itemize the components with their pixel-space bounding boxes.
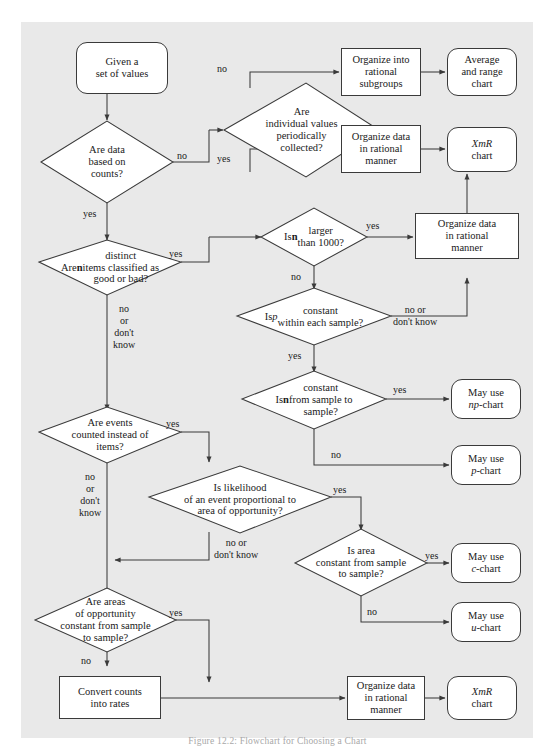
node-start-label: Given aset of values <box>77 56 167 80</box>
node-q-counts-label: Are databased oncounts? <box>41 121 173 203</box>
node-q-n-larger-label: Is n largerthan 1000? <box>261 208 367 266</box>
node-organize-rational-bottom-label: Organize datain rationalmanner <box>348 680 424 715</box>
node-xmr-chart-bottom-label: XmRchart <box>448 686 516 710</box>
node-organize-rational-top-label: Organize datain rationalmanner <box>342 131 420 166</box>
edge-label-individual-no: no <box>217 63 227 75</box>
node-q-areas-opportunity[interactable]: Are areasof opportunityconstant from sam… <box>35 588 176 652</box>
edge-label-nlarger-no: no <box>291 271 301 283</box>
node-xmr-chart-top-label: XmRchart <box>448 138 516 162</box>
node-q-n-larger[interactable]: Is n largerthan 1000? <box>261 208 367 266</box>
edge-likelihood-nodk <box>115 532 209 560</box>
edge-label-events-yes: yes <box>166 418 179 430</box>
node-q-area-constant-label: Is areaconstant from sampleto sample? <box>295 529 427 596</box>
node-np-chart-label: May usenp-chart <box>452 387 520 411</box>
node-organize-subgroups[interactable]: Organize intorationalsubgroups <box>341 48 421 96</box>
node-c-chart[interactable]: May usec-chart <box>451 543 521 583</box>
edge-label-likelihood-nodk: no or don't know <box>214 537 258 561</box>
node-np-chart[interactable]: May usenp-chart <box>451 379 521 419</box>
node-q-events[interactable]: Are eventscounted instead ofitems? <box>39 407 181 463</box>
node-u-chart[interactable]: May useu-chart <box>451 602 521 642</box>
node-xmr-chart-bottom[interactable]: XmRchart <box>447 676 517 720</box>
node-q-p-constant[interactable]: Is p constantwithin each sample? <box>237 288 391 345</box>
node-u-chart-label: May useu-chart <box>452 610 520 634</box>
node-organize-rational-mid[interactable]: Organize datain rationalmanner <box>415 213 519 259</box>
edge-label-areasopp-no: no <box>81 655 91 667</box>
edge-events-yes <box>181 432 209 462</box>
edge-label-pconstant-nodk: no or don't know <box>393 304 437 328</box>
flowchart-panel: Given aset of values Are databased oncou… <box>21 22 533 738</box>
node-organize-rational-mid-label: Organize datain rationalmanner <box>416 218 518 253</box>
node-convert-counts[interactable]: Convert countsinto rates <box>59 676 161 719</box>
node-convert-counts-label: Convert countsinto rates <box>60 686 160 710</box>
node-average-range-chart[interactable]: Averageand rangechart <box>447 48 517 96</box>
edge-label-area-no: no <box>367 606 377 618</box>
edge-label-pconstant-yes: yes <box>288 350 301 362</box>
node-q-distinct[interactable]: Are n distinctitems classified asgood or… <box>39 240 181 295</box>
node-organize-rational-top[interactable]: Organize datain rationalmanner <box>341 125 421 173</box>
edge-label-areasopp-yes: yes <box>169 607 182 619</box>
node-q-n-constant[interactable]: Is n constantfrom sample tosample? <box>242 371 386 429</box>
node-q-counts[interactable]: Are databased oncounts? <box>41 121 173 203</box>
node-p-chart[interactable]: May usep-chart <box>451 445 521 485</box>
edge-label-likelihood-yes: yes <box>333 484 346 496</box>
edge-distinct-yes-path <box>181 237 209 262</box>
edge-areasopp-yes <box>176 620 209 682</box>
edge-label-nlarger-yes: yes <box>366 220 379 232</box>
node-q-distinct-label: Are n distinctitems classified asgood or… <box>39 240 181 295</box>
edge-label-distinct-yes: yes <box>169 248 182 260</box>
edge-label-counts-no: no <box>177 150 187 162</box>
node-q-p-constant-label: Is p constantwithin each sample? <box>237 288 391 345</box>
node-q-events-label: Are eventscounted instead ofitems? <box>39 407 181 463</box>
node-q-areas-opportunity-label: Are areasof opportunityconstant from sam… <box>35 588 176 652</box>
node-q-n-constant-label: Is n constantfrom sample tosample? <box>242 371 386 429</box>
node-q-area-constant[interactable]: Is areaconstant from sampleto sample? <box>295 529 427 596</box>
node-organize-subgroups-label: Organize intorationalsubgroups <box>342 54 420 89</box>
node-average-range-chart-label: Averageand rangechart <box>448 54 516 89</box>
edge-label-nconstant-yes: yes <box>393 384 406 396</box>
node-organize-rational-bottom[interactable]: Organize datain rationalmanner <box>347 676 425 720</box>
node-c-chart-label: May usec-chart <box>452 551 520 575</box>
figure-root: Given aset of values Are databased oncou… <box>0 0 555 754</box>
edge-label-events-no: no or don't know <box>79 471 101 519</box>
edge-label-nconstant-no: no <box>331 449 341 461</box>
edge-label-distinct-no: no or don't know <box>113 303 135 351</box>
node-q-likelihood[interactable]: Is likelihoodof an event proportional to… <box>149 466 331 533</box>
edge-label-area-yes: yes <box>425 550 438 562</box>
node-p-chart-label: May usep-chart <box>452 453 520 477</box>
node-start[interactable]: Given aset of values <box>76 42 168 94</box>
edge-likelihood-yes <box>331 497 361 530</box>
node-xmr-chart-top[interactable]: XmRchart <box>447 127 517 172</box>
edge-label-individual-yes: yes <box>217 153 230 165</box>
figure-caption: Figure 12.2: Flowchart for Choosing a Ch… <box>0 736 555 746</box>
edge-label-counts-yes: yes <box>83 208 96 220</box>
node-q-likelihood-label: Is likelihoodof an event proportional to… <box>149 466 331 533</box>
